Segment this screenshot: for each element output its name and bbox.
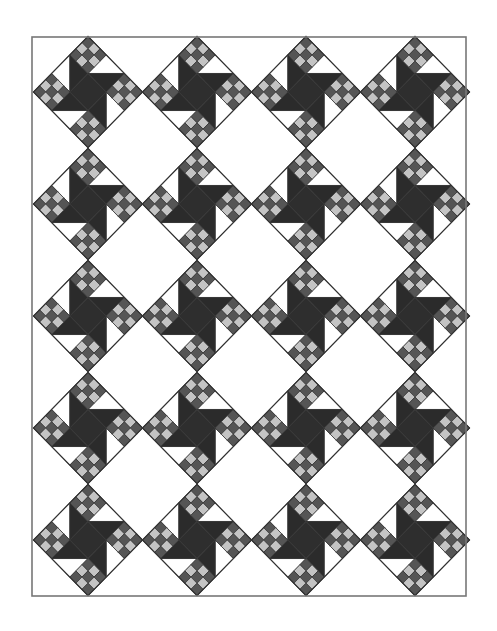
quilt-diagram [0, 0, 497, 631]
